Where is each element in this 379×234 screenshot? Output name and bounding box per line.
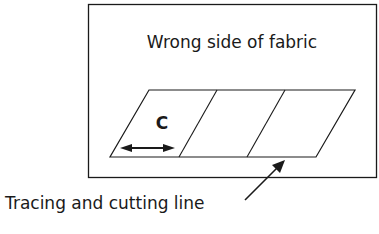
pointer-label: Tracing and cutting line xyxy=(4,193,205,213)
strip-parallelogram xyxy=(110,90,355,157)
width-label: C xyxy=(156,113,168,133)
pointer-arrow-icon xyxy=(245,160,285,200)
segment-divider-2 xyxy=(247,90,285,157)
fabric-label: Wrong side of fabric xyxy=(147,32,317,52)
fabric-diagram: Wrong side of fabric C Tracing and cutti… xyxy=(0,0,379,234)
segment-divider-1 xyxy=(179,90,217,157)
double-arrow-icon xyxy=(120,144,175,152)
